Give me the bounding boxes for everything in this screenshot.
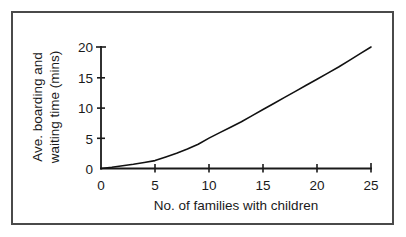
x-tick-label-5: 5 bbox=[151, 178, 159, 193]
x-tick-label-15: 15 bbox=[255, 178, 270, 193]
chart-figure: Ave. boarding and waiting time (mins) 20… bbox=[0, 0, 406, 237]
y-tick-label-0: 0 bbox=[85, 162, 93, 177]
x-tick-label-25: 25 bbox=[363, 178, 378, 193]
y-tick-label-15: 15 bbox=[78, 71, 93, 86]
data-curve-line bbox=[101, 47, 371, 169]
y-tick-label-5: 5 bbox=[85, 132, 93, 147]
x-tick-label-0: 0 bbox=[97, 178, 105, 193]
y-axis-title-line2: waiting time (mins) bbox=[47, 51, 62, 165]
y-tick-label-10: 10 bbox=[78, 101, 93, 116]
y-tick-label-20: 20 bbox=[78, 40, 93, 55]
y-axis-title-line1: Ave. boarding and bbox=[30, 52, 45, 161]
x-tick-label-10: 10 bbox=[201, 178, 216, 193]
chart-plot-area: Ave. boarding and waiting time (mins) 20… bbox=[0, 0, 406, 237]
x-tick-label-20: 20 bbox=[309, 178, 324, 193]
